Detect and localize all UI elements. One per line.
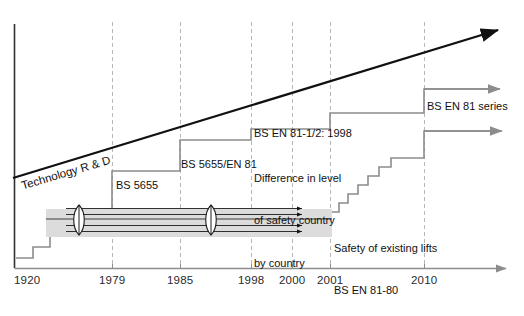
label-bs-en-81-series: BS EN 81 series bbox=[427, 100, 508, 113]
x-tick-label-1998: 1998 bbox=[238, 274, 264, 288]
x-tick-label-2000: 2000 bbox=[279, 274, 305, 288]
difference-line-2: of safety country bbox=[254, 213, 341, 227]
label-safety-of-existing-lifts: Safety of existing lifts BS EN 81-80 bbox=[334, 212, 437, 316]
x-tick-label-2001: 2001 bbox=[317, 274, 343, 288]
timeline-figure: Technology R & D BS 5655 BS 5655/EN 81 B… bbox=[0, 0, 524, 316]
x-tick-label-1979: 1979 bbox=[99, 274, 125, 288]
band-lens-marker-left bbox=[74, 205, 85, 235]
difference-line-3: by country bbox=[254, 256, 341, 270]
x-tick-label-2010: 2010 bbox=[411, 274, 437, 288]
existing-lifts-staircase bbox=[330, 131, 500, 219]
safety-existing-line-1: Safety of existing lifts bbox=[334, 241, 437, 255]
x-tick-label-1920: 1920 bbox=[14, 274, 40, 288]
existing-lifts-steps bbox=[330, 131, 500, 219]
label-bs-5655: BS 5655 bbox=[116, 179, 158, 192]
difference-line-1: Difference in level bbox=[254, 171, 341, 185]
x-tick-label-1985: 1985 bbox=[167, 274, 193, 288]
band-lens-marker-right bbox=[206, 205, 217, 235]
label-bs-en-81-1-2-1998: BS EN 81-1/2: 1998 bbox=[254, 127, 352, 140]
label-bs-5655-en-81: BS 5655/EN 81 bbox=[181, 158, 257, 171]
